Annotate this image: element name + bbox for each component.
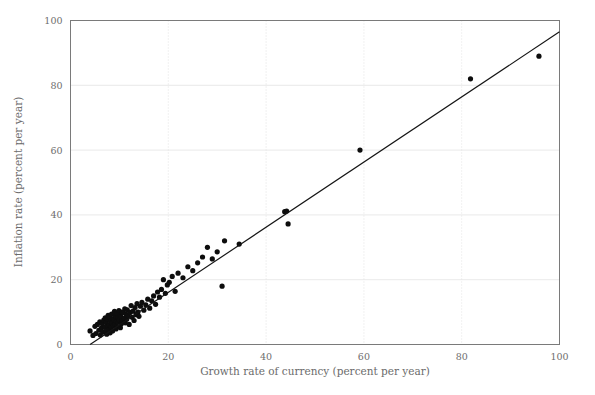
y-tick-label: 60: [50, 145, 62, 156]
chart-figure: 020406080100 020406080100 Growth rate of…: [0, 0, 595, 395]
data-point: [468, 76, 473, 81]
data-point: [536, 54, 541, 59]
y-tick-label: 20: [50, 274, 62, 285]
data-point: [222, 238, 227, 243]
data-point: [200, 254, 205, 259]
data-point: [127, 322, 132, 327]
data-point: [185, 264, 190, 269]
data-point: [357, 148, 362, 153]
data-point: [131, 318, 136, 323]
x-tick-label: 0: [67, 351, 73, 362]
data-point: [161, 277, 166, 282]
data-point: [170, 274, 175, 279]
y-axis-title: Inflation rate (percent per year): [12, 97, 24, 268]
data-point: [195, 260, 200, 265]
data-point: [151, 293, 156, 298]
data-point: [205, 245, 210, 250]
x-tick-label: 80: [456, 351, 468, 362]
data-point: [180, 275, 185, 280]
y-tick-label: 40: [50, 209, 62, 220]
scatter-plot-svg: 020406080100 020406080100 Growth rate of…: [0, 0, 595, 395]
x-tick-label: 60: [358, 351, 370, 362]
x-tick-label: 20: [162, 351, 174, 362]
data-point: [167, 280, 172, 285]
y-tick-label: 100: [44, 15, 62, 26]
x-axis-title: Growth rate of currency (percent per yea…: [200, 365, 430, 377]
x-tick-label: 40: [260, 351, 272, 362]
data-point: [215, 249, 220, 254]
data-point: [136, 314, 141, 319]
data-point: [159, 287, 164, 292]
data-point: [190, 268, 195, 273]
y-tick-label: 0: [56, 339, 62, 350]
data-point: [286, 221, 291, 226]
data-point: [210, 256, 215, 261]
data-point: [87, 328, 92, 333]
plot-background: [0, 0, 595, 395]
data-point: [175, 271, 180, 276]
x-tick-label: 100: [550, 351, 568, 362]
data-point: [219, 284, 224, 289]
y-tick-label: 80: [50, 80, 62, 91]
